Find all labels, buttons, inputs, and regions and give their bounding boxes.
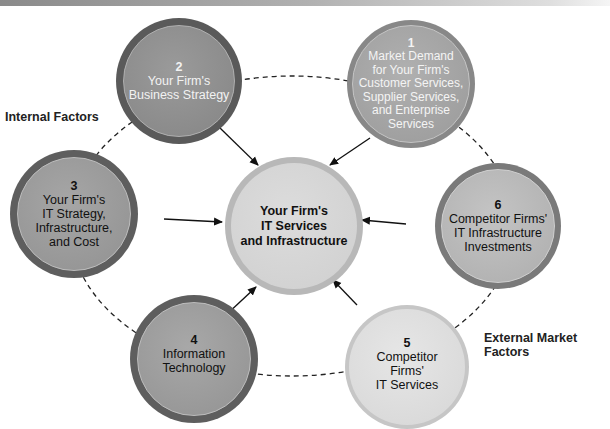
node-number: 1 [359, 37, 464, 51]
node-text: Services [388, 117, 434, 131]
node-text: Business Strategy [129, 88, 230, 102]
node-text: Infrastructure, [35, 221, 112, 235]
node-number: 2 [129, 60, 230, 74]
node-text: IT Services [376, 378, 438, 392]
node-competitor-infrastructure: 6 Competitor Firms' IT Infrastructure In… [435, 163, 561, 289]
node-text: Firms' [390, 364, 424, 378]
node-information-technology: 4 Information Technology [130, 295, 258, 423]
node-text: Your Firm's [148, 74, 210, 88]
node-center-it-services: Your Firm's IT Services and Infrastructu… [225, 157, 363, 295]
node-competitor-it-services: 5 Competitor Firms' IT Services [345, 305, 469, 429]
node-text: Competitor [376, 350, 437, 364]
node-number: 3 [35, 179, 112, 193]
node-number: 5 [376, 336, 438, 350]
center-text: Your Firm's [260, 204, 328, 218]
node-text: Customer Services, [359, 76, 464, 90]
node-market-demand: 1 Market Demand for Your Firm's Customer… [347, 20, 475, 148]
node-business-strategy: 2 Your Firm's Business Strategy [116, 18, 242, 144]
node-number: 6 [449, 198, 547, 212]
node-text: IT Infrastructure [454, 226, 542, 240]
arrow-from-6 [362, 220, 406, 224]
node-text: IT Strategy, [42, 207, 105, 221]
node-text: Technology [162, 361, 225, 375]
node-text: Information [163, 347, 226, 361]
node-text: Market Demand [368, 49, 453, 63]
node-it-strategy: 3 Your Firm's IT Strategy, Infrastructur… [10, 150, 138, 278]
internal-factors-label: Internal Factors [5, 110, 99, 124]
node-text: Supplier Services, [363, 90, 460, 104]
node-text: Investments [464, 240, 531, 254]
node-number: 4 [162, 333, 225, 347]
node-text: for Your Firm's [373, 63, 450, 77]
node-text: and Enterprise [372, 103, 450, 117]
center-text: and Infrastructure [241, 234, 348, 248]
node-text: and Cost [49, 235, 99, 249]
arrow-from-5 [333, 280, 357, 305]
node-text: Your Firm's [43, 193, 105, 207]
arrow-from-2 [220, 128, 258, 165]
center-text: IT Services [261, 219, 327, 233]
arrow-from-3 [164, 219, 222, 222]
external-market-factors-label: External Market Factors [484, 331, 610, 359]
arrow-from-1 [330, 138, 370, 165]
node-text: Competitor Firms' [449, 212, 547, 226]
